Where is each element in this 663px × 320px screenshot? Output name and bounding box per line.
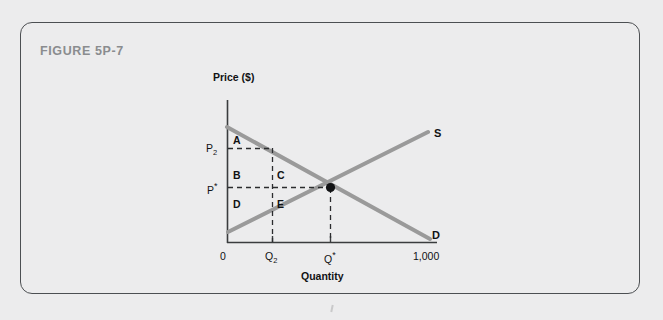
x-axis-label-restricted-quantity-sub: 2 <box>273 256 277 265</box>
x-axis-label-restricted-quantity-base: Q <box>265 250 273 262</box>
x-axis-label-zero: 0 <box>220 251 226 262</box>
y-axis-label-equilibrium-price-base: P <box>207 184 214 196</box>
x-axis-label-max-quantity: 1,000 <box>413 251 439 262</box>
y-axis-label-price-ceiling-sub: 2 <box>213 148 217 157</box>
region-label-c: C <box>277 170 285 181</box>
x-axis-label-equilibrium-quantity: Q* <box>324 251 336 264</box>
figure-page: FIGURE 5P-7 Price ($) Quantity P2 P* <box>0 0 663 320</box>
y-axis-title: Price ($) <box>213 72 254 83</box>
x-axis-label-equilibrium-quantity-base: Q <box>324 253 332 265</box>
y-axis-label-equilibrium-price-sup: * <box>214 181 218 191</box>
y-axis-label-price-ceiling: P2 <box>206 143 217 157</box>
region-label-d: D <box>233 199 241 210</box>
supply-curve-label: S <box>434 128 441 139</box>
x-axis-label-equilibrium-quantity-sup: * <box>332 250 336 260</box>
supply-curve <box>228 132 428 232</box>
equilibrium-point <box>326 183 335 192</box>
y-axis-label-equilibrium-price: P* <box>207 182 218 195</box>
x-axis-title: Quantity <box>301 271 344 282</box>
x-axis-label-restricted-quantity: Q2 <box>265 251 277 265</box>
region-label-b: B <box>233 170 241 181</box>
demand-curve-label: D <box>432 230 440 241</box>
y-axis-label-price-ceiling-base: P <box>206 142 213 154</box>
region-label-a: A <box>233 135 241 146</box>
region-label-e: E <box>277 199 284 210</box>
